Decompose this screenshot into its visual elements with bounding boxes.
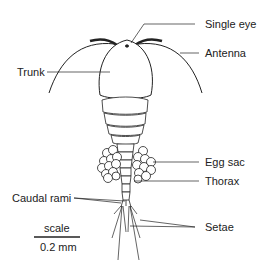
single-eye xyxy=(125,45,128,47)
label-trunk: Trunk xyxy=(17,66,45,78)
label-setae: Setae xyxy=(205,221,234,233)
copepod-illustration xyxy=(0,0,266,276)
label-single-eye: Single eye xyxy=(205,18,256,30)
label-egg-sac: Egg sac xyxy=(205,156,245,168)
scale-label: scale xyxy=(44,222,70,234)
setae-lines xyxy=(112,206,140,260)
label-caudal-rami: Caudal rami xyxy=(12,192,71,204)
label-antenna: Antenna xyxy=(205,47,246,59)
scale-value: 0.2 mm xyxy=(40,241,77,253)
egg-sac-right xyxy=(133,147,156,184)
trunk-shape xyxy=(99,40,152,99)
label-thorax: Thorax xyxy=(205,175,239,187)
